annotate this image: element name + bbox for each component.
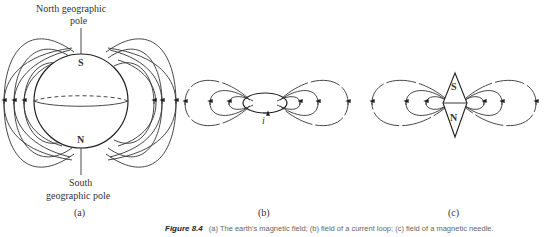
sublabel-b: (b) [258,207,270,218]
south-label: South [69,177,92,188]
north-geographic-label: North geographic [36,3,106,14]
sphere-n-pole: N [77,134,84,145]
figure-caption: Figure 8.4(a) The earth's magnetic field… [165,224,494,233]
south-geographic-label: geographic pole [46,190,110,201]
needle-s-pole: S [451,81,457,92]
sublabel-a: (a) [74,207,85,218]
figure-number: Figure 8.4 [165,224,203,233]
caption-text: (a) The earth's magnetic field; (b) fiel… [209,224,494,233]
sublabel-c: (c) [448,207,459,218]
north-pole-label: pole [70,15,87,26]
needle-n-pole: N [450,112,457,123]
panel-b-field-lines [185,80,348,125]
sphere-s-pole: S [78,57,84,68]
current-label: i [262,115,265,126]
figure-diagram [0,0,544,237]
